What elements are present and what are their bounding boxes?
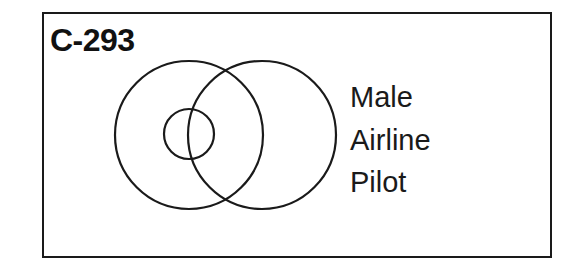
- venn-diagram: [0, 0, 579, 272]
- label-pilot: Pilot: [350, 161, 431, 204]
- category-labels: Male Airline Pilot: [350, 76, 431, 204]
- label-male: Male: [350, 76, 431, 119]
- label-airline: Airline: [350, 119, 431, 162]
